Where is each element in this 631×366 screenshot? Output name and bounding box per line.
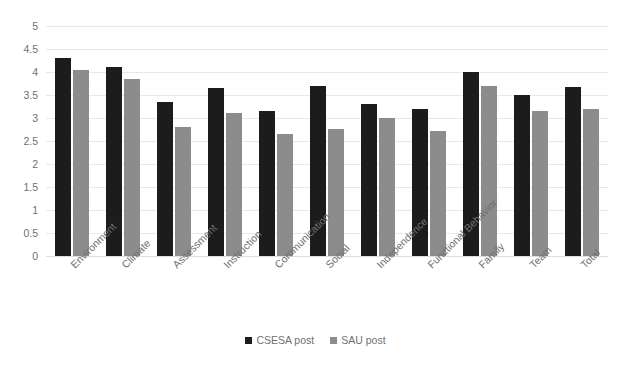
bar (157, 102, 173, 256)
y-axis-tick-label: 5 (32, 21, 38, 32)
x-axis-category: Functional Behavior (404, 258, 455, 318)
bar (277, 134, 293, 256)
bar-group (250, 26, 301, 256)
x-axis-category: Environment (46, 258, 97, 318)
bar-group (353, 26, 404, 256)
bar-group (148, 26, 199, 256)
x-axis-category: Communication (250, 258, 301, 318)
legend-swatch-icon (245, 337, 252, 344)
bar-chart: 54.543.532.521.510.50 EnvironmentClimate… (0, 0, 631, 366)
bar (379, 118, 395, 256)
bar-group (97, 26, 148, 256)
x-axis-category: Family (455, 258, 506, 318)
bar (328, 129, 344, 256)
x-axis-category: Total (557, 258, 608, 318)
y-axis-tick-label: 3 (32, 113, 38, 124)
bar (481, 86, 497, 256)
chart-legend: CSESA postSAU post (0, 334, 631, 346)
y-axis-tick-label: 1 (32, 205, 38, 216)
x-axis-category: Independence (353, 258, 404, 318)
y-axis-tick-label: 2 (32, 159, 38, 170)
y-axis-tick-label: 4.5 (23, 44, 38, 55)
y-axis-tick-label: 2.5 (23, 136, 38, 147)
bar-group (46, 26, 97, 256)
bar (532, 111, 548, 256)
legend-label: SAU post (341, 334, 385, 346)
y-axis-tick-label: 0 (32, 251, 38, 262)
x-axis-category: Social (301, 258, 352, 318)
bar-group (557, 26, 608, 256)
bar (124, 79, 140, 256)
x-axis-category: Team (506, 258, 557, 318)
bar (583, 109, 599, 256)
x-axis-category: Climate (97, 258, 148, 318)
bar-group (506, 26, 557, 256)
x-axis: EnvironmentClimateAssessmentInstructionC… (46, 258, 608, 318)
legend-label: CSESA post (256, 334, 314, 346)
y-axis-tick-label: 0.5 (23, 228, 38, 239)
bar (565, 87, 581, 256)
x-axis-category: Assessment (148, 258, 199, 318)
x-axis-category: Instruction (199, 258, 250, 318)
y-axis-tick-label: 4 (32, 67, 38, 78)
bar (430, 131, 446, 256)
y-axis-tick-label: 1.5 (23, 182, 38, 193)
legend-item[interactable]: CSESA post (245, 334, 314, 346)
bar-group (199, 26, 250, 256)
bar (73, 70, 89, 256)
bar (514, 95, 530, 256)
bar (226, 113, 242, 256)
legend-swatch-icon (330, 337, 337, 344)
bar (361, 104, 377, 256)
y-axis-tick-label: 3.5 (23, 90, 38, 101)
y-axis: 54.543.532.521.510.50 (0, 26, 38, 256)
bar (55, 58, 71, 256)
bar (175, 127, 191, 256)
legend-item[interactable]: SAU post (330, 334, 385, 346)
